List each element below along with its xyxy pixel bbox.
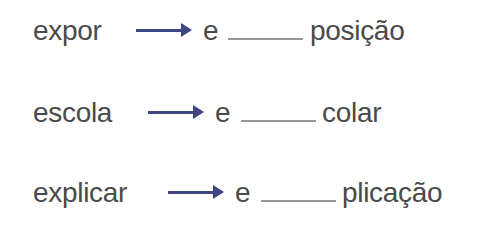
prefix-letter: e — [215, 99, 230, 127]
fill-in-blank[interactable] — [261, 200, 336, 202]
exercise-row-2: escola e colar — [0, 94, 502, 144]
right-arrow-icon — [136, 23, 192, 37]
word-suffix: colar — [322, 99, 381, 127]
right-arrow-icon — [148, 105, 204, 119]
fill-in-blank[interactable] — [241, 120, 316, 122]
word-suffix: posição — [310, 17, 404, 45]
fill-in-blank[interactable] — [228, 38, 303, 40]
prefix-letter: e — [203, 17, 218, 45]
source-word: expor — [33, 17, 102, 45]
right-arrow-icon — [168, 185, 224, 199]
prefix-letter: e — [235, 179, 250, 207]
exercise-row-3: explicar e plicação — [0, 174, 502, 224]
exercise-row-1: expor e posição — [0, 12, 502, 62]
word-suffix: plicação — [342, 179, 442, 207]
source-word: escola — [33, 99, 112, 127]
source-word: explicar — [33, 179, 127, 207]
